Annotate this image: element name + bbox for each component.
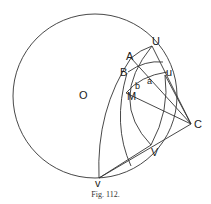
label-U: U [152,36,160,47]
label-a: a [147,77,152,86]
label-V: V [151,147,158,158]
label-v: v [95,178,101,189]
label-A: A [126,51,133,62]
label-u: u [166,67,172,78]
label-C: C [194,119,202,130]
geometry-diagram [0,0,211,204]
label-O: O [79,90,88,101]
arc-u-V [151,75,166,145]
arc-B-M-bottom [120,73,131,166]
figure-caption: Fig. 112. [0,190,211,199]
line-A-C [131,58,191,124]
arc-A-U [131,46,152,58]
label-B: B [120,67,127,78]
label-M: M [127,91,136,102]
arc-B-a [128,62,163,72]
line-v-C [99,124,191,178]
